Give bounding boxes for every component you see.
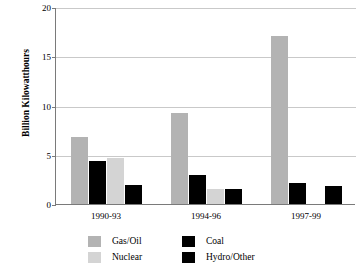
bar: [171, 113, 188, 204]
legend-label: Hydro/Other: [206, 252, 255, 262]
y-axis-title: Billion Kilowatthours: [21, 23, 31, 163]
bar: [125, 185, 142, 204]
legend-entry: Hydro/Other: [182, 252, 353, 263]
bar: [271, 36, 288, 204]
legend-entry: Coal: [182, 236, 353, 247]
x-axis-tick-label: 1994-96: [191, 211, 221, 221]
bar: [71, 137, 88, 204]
chart-legend: Gas/OilCoalNuclearHydro/Other: [88, 233, 353, 265]
legend-label: Gas/Oil: [112, 236, 142, 246]
y-axis-tick-label: 20: [42, 3, 51, 13]
legend-swatch-icon: [182, 252, 195, 263]
bar: [225, 189, 242, 204]
legend-label: Coal: [206, 236, 224, 246]
bar-chart: Billion Kilowatthours 051015201990-93199…: [0, 0, 362, 273]
y-axis-tick-label: 5: [47, 151, 52, 161]
bar: [107, 158, 124, 204]
bar-group: 1994-96: [156, 7, 256, 204]
bar: [207, 189, 224, 204]
y-axis-tick-mark: [52, 205, 56, 206]
bar: [289, 183, 306, 204]
legend-entry: Gas/Oil: [88, 236, 182, 247]
y-axis-tick-label: 0: [47, 200, 52, 210]
bar-group: 1997-99: [256, 7, 356, 204]
legend-swatch-icon: [88, 236, 101, 247]
y-axis-tick-label: 10: [42, 102, 51, 112]
bar: [325, 186, 342, 204]
x-axis-tick-label: 1990-93: [91, 211, 121, 221]
legend-entry: Nuclear: [88, 252, 182, 263]
x-axis-tick-label: 1997-99: [291, 211, 321, 221]
plot-area: 051015201990-931994-961997-99: [55, 8, 355, 205]
legend-swatch-icon: [182, 236, 195, 247]
bar-group: 1990-93: [56, 7, 156, 204]
y-axis-tick-label: 15: [42, 52, 51, 62]
legend-swatch-icon: [88, 252, 101, 263]
legend-label: Nuclear: [112, 252, 142, 262]
bar: [89, 161, 106, 204]
bar: [189, 175, 206, 204]
